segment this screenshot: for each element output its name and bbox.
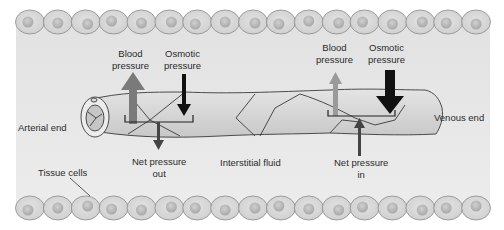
interstitial-fluid-label: Interstitial fluid: [220, 157, 281, 169]
cell-nucleus: [190, 203, 201, 214]
cell-nucleus: [190, 19, 201, 30]
cell-nucleus: [220, 205, 231, 216]
cell-nucleus: [357, 17, 368, 28]
cell-nucleus: [417, 205, 428, 216]
cell-nucleus: [166, 17, 177, 28]
cell-nucleus: [273, 19, 284, 30]
cell-nucleus: [136, 18, 147, 29]
venous-end-label: Venous end: [434, 112, 484, 124]
cell-nucleus: [106, 16, 117, 27]
top-tissue-cells: [15, 10, 490, 34]
cell-nucleus: [387, 19, 398, 30]
cell-nucleus: [303, 204, 314, 215]
cell-nucleus: [250, 18, 261, 29]
cell-nucleus: [250, 203, 261, 214]
cell-nucleus: [471, 19, 482, 30]
cell-nucleus: [387, 203, 398, 214]
cell-nucleus: [441, 18, 452, 29]
cell-nucleus: [52, 203, 63, 214]
arterial-blood-pressure-label: Blood pressure: [112, 48, 149, 72]
cell-nucleus: [333, 18, 344, 29]
cell-nucleus: [106, 204, 117, 215]
cell-nucleus: [357, 202, 368, 213]
net-pressure-out-label: Net pressure out: [132, 156, 186, 180]
cell-nucleus: [136, 205, 147, 216]
cell-nucleus: [82, 19, 93, 30]
cell-nucleus: [22, 205, 33, 216]
cell-nucleus: [22, 17, 33, 28]
venous-osmotic-pressure-label: Osmotic pressure: [368, 42, 405, 66]
cell-nucleus: [303, 16, 314, 27]
arterial-osmotic-pressure-label: Osmotic pressure: [164, 48, 201, 72]
diagram-graphic: [0, 0, 504, 230]
cell-nucleus: [441, 203, 452, 214]
cell-nucleus: [220, 17, 231, 28]
cell-nucleus: [82, 201, 93, 212]
tissue-cells-label: Tissue cells: [38, 167, 87, 179]
venous-blood-pressure-label: Blood pressure: [316, 42, 353, 66]
arterial-end-label: Arterial end: [18, 122, 67, 134]
cell-nucleus: [333, 205, 344, 216]
cell-nucleus: [273, 201, 284, 212]
net-pressure-in-label: Net pressure in: [334, 157, 388, 181]
cell-nucleus: [471, 201, 482, 212]
cell-nucleus: [52, 18, 63, 29]
cell-nucleus: [166, 202, 177, 213]
capillary-exchange-diagram: Blood pressure Osmotic pressure Blood pr…: [0, 0, 504, 230]
bottom-tissue-cells: [15, 196, 490, 220]
cell-nucleus: [417, 17, 428, 28]
